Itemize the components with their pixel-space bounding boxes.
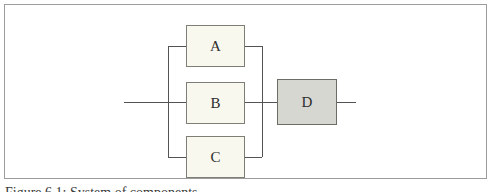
series-line-left-stub	[124, 102, 186, 103]
block-d: D	[277, 79, 337, 125]
branch-line-c-left	[168, 157, 186, 158]
block-b: B	[186, 82, 245, 124]
branch-line-a-right	[244, 46, 262, 47]
figure-canvas: A B C D Figure 6.1: System of components	[0, 0, 493, 192]
block-a-label: A	[210, 38, 221, 55]
block-a: A	[186, 25, 245, 67]
block-d-label: D	[302, 94, 313, 111]
block-c-label: C	[210, 149, 220, 166]
series-line-right-stub	[336, 102, 356, 103]
parallel-rail-right	[262, 46, 263, 157]
block-c: C	[186, 136, 245, 178]
series-line-between-parallel-and-d	[244, 102, 277, 103]
branch-line-a-left	[168, 46, 186, 47]
branch-line-c-right	[244, 157, 262, 158]
figure-frame: A B C D	[4, 4, 487, 179]
parallel-rail-left	[168, 46, 169, 157]
block-b-label: B	[210, 95, 220, 112]
figure-caption: Figure 6.1: System of components	[5, 185, 198, 192]
